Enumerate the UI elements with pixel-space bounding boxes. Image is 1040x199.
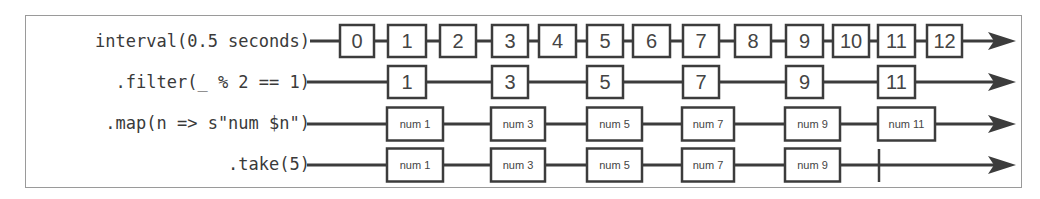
marble-value: 2 bbox=[452, 30, 463, 52]
marble-value: num 9 bbox=[797, 159, 828, 171]
marble-box: 3 bbox=[492, 66, 528, 98]
timeline-row-2: num 1num 3num 5num 7num 9num 11 bbox=[307, 108, 1016, 141]
marble-box: 1 bbox=[388, 66, 426, 98]
marble-value: num 7 bbox=[693, 159, 724, 171]
timeline-row-0: 0123456789101112 bbox=[310, 25, 1016, 57]
marble-value: 5 bbox=[599, 30, 610, 52]
marble-box: 1 bbox=[388, 25, 426, 57]
marble-value: num 1 bbox=[400, 118, 431, 130]
marble-value: 4 bbox=[552, 30, 563, 52]
marble-box: num 7 bbox=[682, 108, 734, 141]
marble-value: num 11 bbox=[889, 118, 925, 130]
marble-value: 9 bbox=[799, 30, 810, 52]
marble-value: num 9 bbox=[797, 118, 828, 130]
marble-box: num 1 bbox=[387, 108, 443, 141]
marble-box: 5 bbox=[587, 25, 623, 57]
marble-box: 0 bbox=[340, 25, 374, 57]
marble-box: 3 bbox=[492, 25, 528, 57]
marble-box: num 11 bbox=[878, 108, 935, 141]
marble-value: num 5 bbox=[599, 118, 630, 130]
marble-box: num 3 bbox=[491, 149, 545, 182]
marble-value: 7 bbox=[695, 71, 706, 93]
marble-box: num 9 bbox=[785, 149, 840, 182]
marble-box: 2 bbox=[440, 25, 476, 57]
marble-box: num 5 bbox=[587, 108, 642, 141]
marble-value: 0 bbox=[351, 30, 362, 52]
marble-box: 4 bbox=[539, 25, 576, 57]
marble-value: num 1 bbox=[400, 159, 431, 171]
marble-box: 9 bbox=[786, 66, 823, 98]
marble-value: 3 bbox=[504, 30, 515, 52]
marble-box: num 7 bbox=[682, 149, 734, 182]
marble-value: 11 bbox=[886, 30, 907, 52]
marble-box: 7 bbox=[683, 25, 719, 57]
marble-box: 7 bbox=[683, 66, 719, 98]
marble-value: num 7 bbox=[693, 118, 724, 130]
marble-value: 9 bbox=[799, 71, 810, 93]
marble-value: num 3 bbox=[503, 118, 534, 130]
marble-value: 1 bbox=[401, 71, 412, 93]
marble-box: 12 bbox=[927, 25, 962, 57]
marble-box: 9 bbox=[786, 25, 823, 57]
timeline-row-3: num 1num 3num 5num 7num 9 bbox=[307, 149, 1016, 183]
marble-value: 6 bbox=[646, 30, 657, 52]
marble-value: 5 bbox=[599, 71, 610, 93]
marble-value: 7 bbox=[695, 30, 706, 52]
marble-value: 1 bbox=[401, 30, 412, 52]
marble-box: 10 bbox=[833, 25, 869, 57]
marble-box: num 3 bbox=[491, 108, 545, 141]
marble-box: num 9 bbox=[785, 108, 840, 141]
marble-box: 6 bbox=[633, 25, 670, 57]
marble-box: 5 bbox=[587, 66, 623, 98]
marble-value: 11 bbox=[886, 71, 907, 93]
marble-diagram: 01234567891011121357911num 1num 3num 5nu… bbox=[0, 0, 1040, 199]
marble-box: 11 bbox=[878, 25, 915, 57]
marble-box: num 5 bbox=[587, 149, 642, 182]
marble-value: 10 bbox=[840, 30, 862, 52]
marble-box: num 1 bbox=[387, 149, 443, 182]
marble-value: num 3 bbox=[503, 159, 534, 171]
marble-value: num 5 bbox=[599, 159, 630, 171]
marble-value: 3 bbox=[504, 71, 515, 93]
timeline-row-1: 1357911 bbox=[307, 66, 1016, 98]
marble-box: 11 bbox=[878, 66, 915, 98]
marble-value: 8 bbox=[747, 30, 758, 52]
marble-box: 8 bbox=[735, 25, 771, 57]
marble-value: 12 bbox=[933, 30, 955, 52]
